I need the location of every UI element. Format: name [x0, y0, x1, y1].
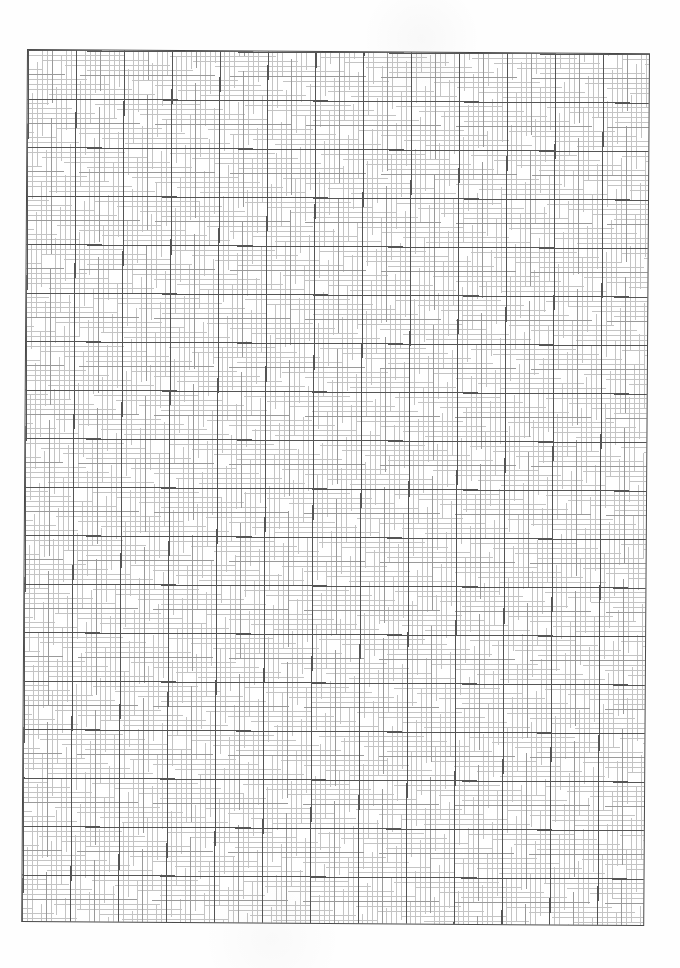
scanned-page	[0, 0, 680, 968]
graph-paper-grid	[21, 49, 650, 926]
